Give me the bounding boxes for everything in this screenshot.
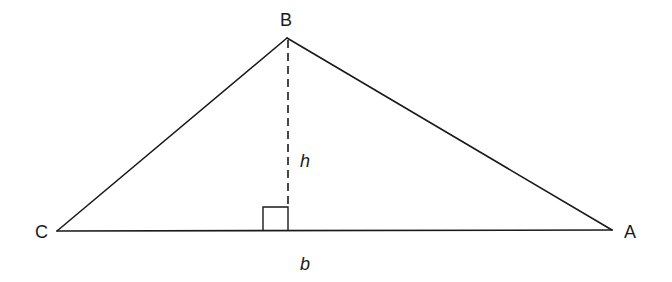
base-edge-ca: [57, 230, 612, 231]
edge-ba: [287, 38, 612, 230]
triangle-diagram: B C A h b: [0, 0, 672, 282]
vertex-label-c: C: [35, 222, 48, 242]
height-label: h: [300, 151, 310, 171]
edge-cb: [57, 38, 287, 231]
right-angle-marker: [263, 207, 288, 231]
vertex-label-a: A: [624, 222, 636, 242]
vertex-label-b: B: [280, 10, 292, 30]
base-label: b: [300, 254, 310, 274]
